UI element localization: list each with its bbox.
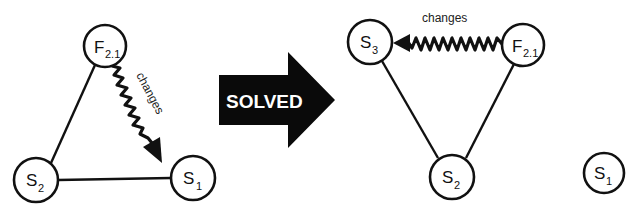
- node-label: S: [442, 168, 453, 187]
- node-subscript: 2.1: [105, 48, 120, 60]
- node-s1-before: S 1: [171, 156, 215, 200]
- edge-f21-s2: [466, 64, 514, 158]
- node-s1-after: S 1: [584, 153, 624, 193]
- node-label: F: [512, 37, 522, 56]
- node-s2-after: S 2: [430, 155, 474, 199]
- solved-arrow: SOLVED: [219, 52, 335, 148]
- changes-label: changes: [422, 11, 467, 25]
- changes-arrow-after: changes: [393, 11, 502, 52]
- changes-arrow-before: changes: [112, 66, 167, 163]
- node-subscript: 2.1: [523, 47, 538, 59]
- after-graph: changes S 3 F 2.1 S 2 S 1: [348, 11, 624, 199]
- changes-label: changes: [133, 70, 167, 117]
- before-graph: changes F 2.1 S 2 S 1: [14, 25, 215, 202]
- edge-s3-s2: [382, 61, 438, 158]
- edge-f21-s2: [51, 65, 95, 163]
- node-label: S: [26, 171, 37, 190]
- node-f21-after: F 2.1: [502, 24, 544, 66]
- node-s2-before: S 2: [14, 158, 58, 202]
- solved-label: SOLVED: [226, 91, 303, 112]
- node-label: S: [183, 169, 194, 188]
- node-s3-after: S 3: [348, 20, 392, 64]
- node-label: S: [360, 33, 371, 52]
- node-f21-before: F 2.1: [84, 25, 126, 67]
- node-subscript: 3: [372, 44, 378, 56]
- diagram-canvas: changes F 2.1 S 2 S 1 SOLVED changes: [0, 0, 639, 207]
- node-subscript: 2: [454, 179, 460, 191]
- arrowhead-icon: [393, 34, 410, 52]
- node-subscript: 1: [606, 175, 612, 187]
- edge-s2-s1: [58, 178, 171, 180]
- node-subscript: 2: [38, 182, 44, 194]
- node-label: S: [594, 164, 605, 183]
- arrowhead-icon: [143, 137, 162, 163]
- node-subscript: 1: [196, 180, 202, 192]
- node-label: F: [94, 38, 104, 57]
